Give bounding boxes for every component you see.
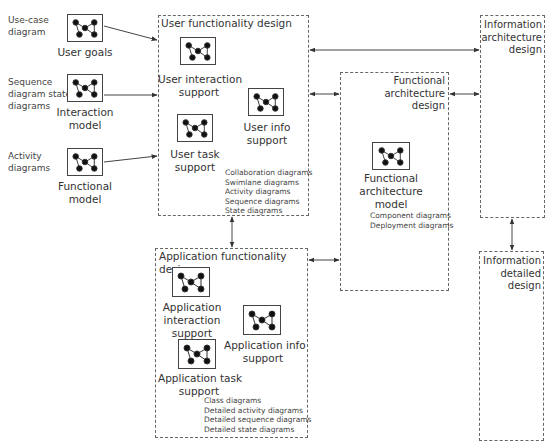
diagram-type: Class diagrams bbox=[204, 396, 311, 406]
box-title: User functionality design bbox=[161, 17, 292, 30]
information-architecture-design-box: Information architecture design bbox=[480, 15, 545, 218]
diagram-type: Deployment diagrams bbox=[370, 221, 453, 231]
graph-icon bbox=[372, 142, 410, 170]
information-detailed-design-box: Information detailed design bbox=[479, 251, 544, 441]
user-diagram-list: Collaboration diagrams Swimlane diagrams… bbox=[225, 168, 312, 216]
component-caption-application-info: Application info support bbox=[224, 339, 302, 365]
graph-icon bbox=[172, 267, 210, 297]
box-title: Information architecture design bbox=[481, 19, 542, 57]
diagram-type: Detailed state diagrams bbox=[204, 425, 311, 435]
diagram-type: Detailed activity diagrams bbox=[204, 406, 311, 416]
graph-icon bbox=[177, 114, 213, 142]
diagram-type: Swimlane diagrams bbox=[225, 178, 312, 188]
model-caption-interaction: Interaction model bbox=[50, 106, 120, 132]
graph-icon bbox=[67, 74, 103, 102]
component-caption-user-task: User task support bbox=[163, 148, 227, 174]
source-label-activity: Activity diagrams bbox=[8, 150, 50, 174]
graph-icon bbox=[248, 88, 284, 116]
diagram-type: State diagrams bbox=[225, 206, 312, 216]
architecture-diagram-list: Component diagrams Deployment diagrams bbox=[370, 211, 453, 230]
model-caption-functional: Functional model bbox=[50, 180, 120, 206]
graph-icon bbox=[67, 148, 103, 176]
component-caption-user-info: User info support bbox=[236, 121, 298, 147]
application-diagram-list: Class diagrams Detailed activity diagram… bbox=[204, 396, 311, 434]
graph-icon bbox=[67, 14, 103, 42]
diagram-type: Component diagrams bbox=[370, 211, 453, 221]
box-title: Information detailed design bbox=[483, 255, 541, 293]
diagram-type: Sequence diagrams bbox=[225, 197, 312, 207]
model-caption-user-goals: User goals bbox=[50, 46, 120, 59]
diagram-type: Collaboration diagrams bbox=[225, 168, 312, 178]
component-caption-application-interaction: Application interaction support bbox=[156, 301, 228, 340]
box-title: Functional architecture design bbox=[384, 75, 445, 113]
diagram-type: Detailed sequence diagrams bbox=[204, 415, 311, 425]
diagram-type: Activity diagrams bbox=[225, 187, 312, 197]
graph-icon bbox=[180, 37, 216, 65]
model-caption-functional-architecture: Functional architecture model bbox=[350, 172, 432, 211]
source-label-use-case: Use-case diagram bbox=[8, 14, 49, 38]
component-caption-application-task: Application task support bbox=[158, 372, 240, 398]
graph-icon bbox=[243, 305, 281, 335]
component-caption-user-interaction: User interaction support bbox=[158, 73, 240, 99]
graph-icon bbox=[178, 339, 216, 369]
